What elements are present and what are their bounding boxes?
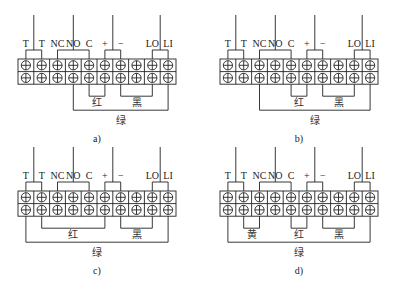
screw-terminal-icon (21, 73, 30, 82)
terminal-label: C (86, 38, 93, 49)
panel-caption: c) (93, 265, 101, 277)
screw-terminal-icon (53, 205, 62, 214)
bottom-wire (260, 84, 371, 110)
top-bracket-wire (228, 50, 244, 59)
screw-terminal-icon (271, 193, 280, 202)
screw-terminal-icon (287, 205, 296, 214)
screw-terminal-icon (53, 73, 62, 82)
screw-terminal-icon (116, 73, 125, 82)
screw-terminal-icon (148, 205, 157, 214)
wire-color-label: 黄 (247, 228, 257, 240)
screw-terminal-icon (302, 193, 311, 202)
screw-terminal-icon (53, 193, 62, 202)
top-bracket-wire (26, 50, 42, 59)
screw-terminal-icon (85, 205, 94, 214)
wire-color-label: 红 (294, 228, 304, 240)
terminal-label: C (288, 38, 295, 49)
top-bracket-wire (260, 50, 292, 59)
screw-terminal-icon (318, 73, 327, 82)
screw-terminal-icon (116, 193, 125, 202)
screw-terminal-icon (366, 205, 375, 214)
screw-terminal-icon (334, 205, 343, 214)
wire-color-label: 黑 (132, 229, 142, 240)
bottom-wire (121, 84, 153, 96)
screw-terminal-icon (239, 193, 248, 202)
screw-terminal-icon (239, 61, 248, 70)
screw-terminal-icon (85, 61, 94, 70)
screw-terminal-icon (69, 61, 78, 70)
wire-color-label: 黑 (132, 97, 142, 108)
top-bracket-wire (26, 182, 42, 191)
screw-terminal-icon (21, 193, 30, 202)
screw-terminal-icon (239, 205, 248, 214)
terminal-label: LO (348, 170, 361, 181)
terminal-label: T (241, 170, 247, 181)
wire-color-label: 黑 (334, 229, 344, 240)
screw-terminal-icon (69, 73, 78, 82)
screw-terminal-icon (271, 61, 280, 70)
terminal-label: + (304, 38, 310, 49)
screw-terminal-icon (287, 73, 296, 82)
screw-terminal-icon (164, 193, 173, 202)
screw-terminal-icon (334, 73, 343, 82)
bottom-wire (291, 84, 307, 96)
screw-terminal-icon (164, 205, 173, 214)
screw-terminal-icon (116, 61, 125, 70)
terminal-label: T (23, 38, 29, 49)
screw-terminal-icon (350, 61, 359, 70)
screw-terminal-icon (287, 193, 296, 202)
screw-terminal-icon (255, 193, 264, 202)
screw-terminal-icon (100, 205, 109, 214)
terminal-label: NC (51, 38, 65, 49)
screw-terminal-icon (223, 61, 232, 70)
terminal-label: LI (365, 38, 374, 49)
terminal-wiring-diagrams: TTNCNOC+−LOLI红黑绿a)TTNCNOC+−LOLI红黑绿b)TTNC… (0, 0, 393, 294)
screw-terminal-icon (350, 193, 359, 202)
terminal-label: − (118, 38, 124, 49)
screw-terminal-icon (21, 61, 30, 70)
panel-caption: d) (295, 265, 303, 277)
screw-terminal-icon (302, 73, 311, 82)
screw-terminal-icon (366, 73, 375, 82)
screw-terminal-icon (37, 61, 46, 70)
wire-color-label: 绿 (294, 246, 304, 258)
bottom-wire (42, 216, 105, 228)
terminal-label: LO (146, 170, 159, 181)
screw-terminal-icon (287, 61, 296, 70)
terminal-label: LI (163, 170, 172, 181)
screw-terminal-icon (366, 61, 375, 70)
screw-terminal-icon (302, 61, 311, 70)
terminal-label: LO (146, 38, 159, 49)
bottom-wire (26, 216, 168, 242)
wire-color-label: 红 (294, 96, 304, 108)
screw-terminal-icon (100, 73, 109, 82)
top-bracket-wire (260, 182, 292, 191)
screw-terminal-icon (223, 205, 232, 214)
screw-terminal-icon (164, 61, 173, 70)
terminal-label: − (320, 170, 326, 181)
screw-terminal-icon (239, 73, 248, 82)
screw-terminal-icon (255, 73, 264, 82)
screw-terminal-icon (271, 205, 280, 214)
screw-terminal-icon (148, 193, 157, 202)
bottom-wire (121, 216, 153, 228)
screw-terminal-icon (37, 73, 46, 82)
top-bracket-wire (105, 182, 121, 191)
screw-terminal-icon (318, 61, 327, 70)
bottom-wire (244, 216, 260, 228)
terminal-label: NC (253, 38, 267, 49)
terminal-label: NC (253, 170, 267, 181)
terminal-label: T (39, 170, 45, 181)
screw-terminal-icon (223, 73, 232, 82)
terminal-label: LI (365, 170, 374, 181)
screw-terminal-icon (164, 73, 173, 82)
panel-b: TTNCNOC+−LOLI红黑绿b) (220, 15, 378, 145)
screw-terminal-icon (132, 205, 141, 214)
screw-terminal-icon (132, 61, 141, 70)
screw-terminal-icon (148, 61, 157, 70)
terminal-label: T (225, 170, 231, 181)
top-bracket-wire (307, 182, 323, 191)
screw-terminal-icon (366, 193, 375, 202)
top-bracket-wire (152, 50, 168, 59)
screw-terminal-icon (69, 193, 78, 202)
